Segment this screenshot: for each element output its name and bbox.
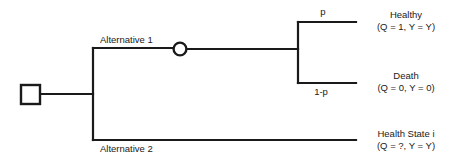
probability-label-1-minus-p: 1-p	[306, 86, 336, 98]
outcome-death-name: Death	[358, 70, 454, 82]
outcome-health-state-i-payoff: (Q = ?, Y = Y)	[358, 140, 454, 152]
outcome-death-payoff: (Q = 0, Y = 0)	[358, 82, 454, 94]
branch-label-alternative-2: Alternative 2	[100, 143, 153, 155]
chance-node-circle[interactable]	[174, 43, 187, 56]
decision-tree-diagram: Alternative 1 Alternative 2 p 1-p Health…	[0, 0, 455, 162]
outcome-healthy: Healthy (Q = 1, Y = Y)	[358, 9, 454, 33]
probability-label-p: p	[310, 6, 336, 18]
outcome-healthy-name: Healthy	[358, 9, 454, 21]
outcome-healthy-payoff: (Q = 1, Y = Y)	[358, 21, 454, 33]
outcome-death: Death (Q = 0, Y = 0)	[358, 70, 454, 94]
branch-label-alternative-1: Alternative 1	[100, 34, 153, 46]
outcome-health-state-i-name: Health State i	[358, 128, 454, 140]
decision-node-square[interactable]	[21, 85, 40, 104]
outcome-health-state-i: Health State i (Q = ?, Y = Y)	[358, 128, 454, 152]
